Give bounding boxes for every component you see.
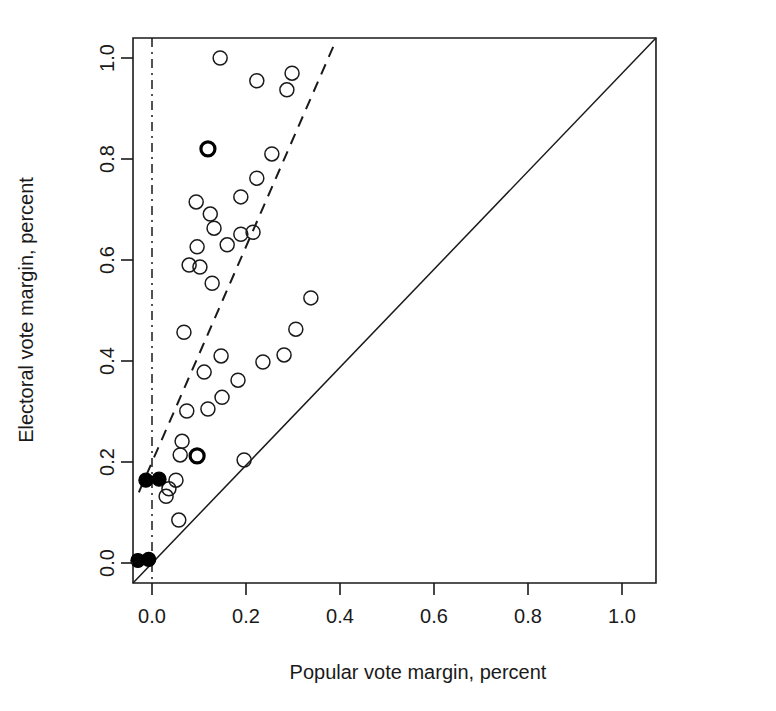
data-point xyxy=(142,552,156,566)
x-tick-label: 0.8 xyxy=(514,605,542,627)
x-tick-label: 0.4 xyxy=(326,605,354,627)
y-tick-label: 0.2 xyxy=(96,448,118,476)
y-tick-label: 0.0 xyxy=(96,549,118,577)
y-tick-label: 0.8 xyxy=(96,145,118,173)
chart-canvas: 0.00.20.40.60.81.0 0.00.20.40.60.81.0 Po… xyxy=(0,0,776,711)
y-tick-label: 0.4 xyxy=(96,347,118,375)
x-tick-label: 0.0 xyxy=(138,605,166,627)
y-axis-title: Electoral vote margin, percent xyxy=(15,177,37,443)
x-axis-title: Popular vote margin, percent xyxy=(290,661,547,683)
x-tick-label: 1.0 xyxy=(608,605,636,627)
scatter-plot-figure: 0.00.20.40.60.81.0 0.00.20.40.60.81.0 Po… xyxy=(0,0,776,711)
data-point xyxy=(152,472,166,486)
x-tick-label: 0.2 xyxy=(232,605,260,627)
data-point xyxy=(139,473,153,487)
y-tick-label: 0.6 xyxy=(96,246,118,274)
x-tick-label: 0.6 xyxy=(420,605,448,627)
y-tick-label: 1.0 xyxy=(96,44,118,72)
